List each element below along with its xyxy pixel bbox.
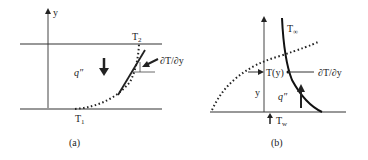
boundary-layer-edge (212, 42, 318, 110)
panel-b: y ∂T/∂y T(y) T∞ q″ Tw (b) (210, 16, 346, 149)
y-axis-arrow-icon (261, 16, 267, 22)
y-axis-arrow-icon (45, 8, 51, 14)
bottom-temp-label: T1 (75, 113, 85, 126)
gradient-label: ∂T/∂y (160, 55, 184, 66)
tangent-line (118, 50, 145, 95)
top-temp-label: T2 (132, 31, 142, 44)
free-stream-temp-label: T∞ (287, 23, 298, 36)
y-axis-label: y (53, 7, 58, 18)
caption-b: (b) (271, 137, 283, 149)
panel-a: y q″ ∂T/∂y T2 T1 (a) (20, 7, 184, 149)
heat-flux-label: q″ (278, 91, 288, 102)
wall-temp-arrowhead-icon (267, 113, 273, 118)
heat-flux-arrowhead-icon (99, 68, 109, 76)
caption-a: (a) (69, 137, 80, 149)
heat-flux-label: q″ (74, 67, 84, 78)
y-axis-label: y (255, 87, 260, 98)
wall-temp-label: Tw (276, 115, 288, 128)
heat-transfer-diagram: y q″ ∂T/∂y T2 T1 (a) y (0, 0, 368, 160)
heat-flux-arrowhead-icon (297, 84, 305, 92)
gradient-label: ∂T/∂y (318, 67, 342, 78)
local-temp-label: T(y) (266, 67, 284, 79)
local-temp-arrowhead-icon (258, 69, 264, 75)
